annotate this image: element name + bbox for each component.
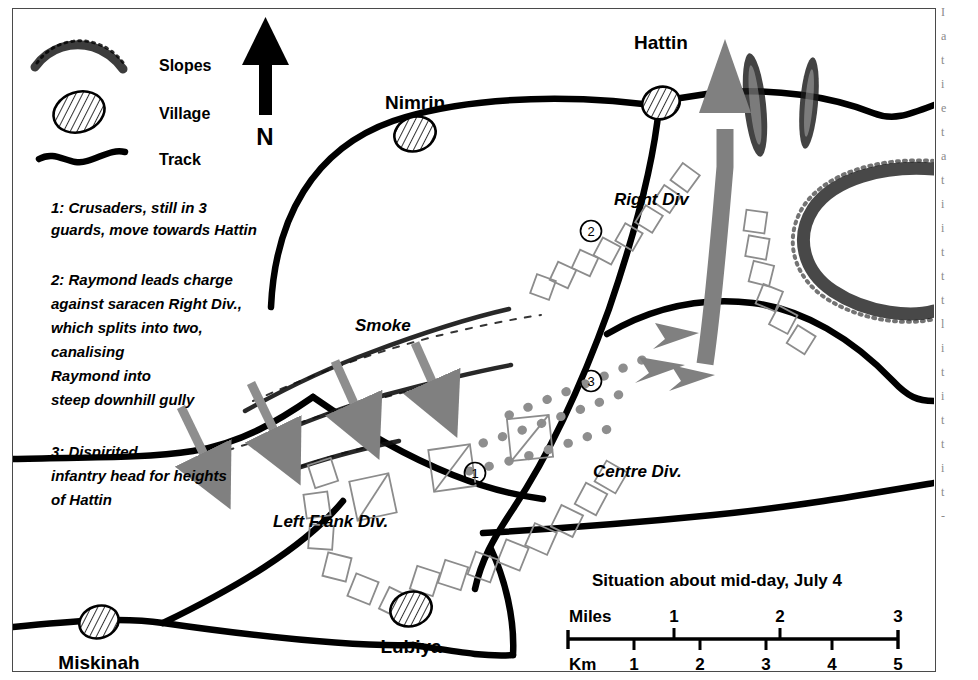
margin-fragment: t: [941, 48, 978, 72]
margin-fragment: a: [941, 24, 978, 48]
margin-fragment: -: [941, 504, 978, 528]
margin-fragment: t: [941, 432, 978, 456]
margin-fragment: e: [941, 96, 978, 120]
margin-fragment: t: [941, 408, 978, 432]
margin-fragment: a: [941, 144, 978, 168]
margin-fragment: i: [941, 456, 978, 480]
margin-fragment: t: [941, 120, 978, 144]
margin-fragment: t: [941, 480, 978, 504]
margin-fragment: t: [941, 360, 978, 384]
margin-fragment: i: [941, 384, 978, 408]
place-label-lubiya: Lubiya: [380, 636, 442, 657]
margin-fragment: t: [941, 288, 978, 312]
margin-fragment: t: [941, 264, 978, 288]
margin-fragment: l: [941, 312, 978, 336]
margin-fragment: i: [941, 72, 978, 96]
margin-fragment: t: [941, 168, 978, 192]
margin-fragment: I: [941, 0, 978, 24]
page-margin-text-sliver: I a t i e t a t i i t t t l i t i t t i …: [941, 0, 978, 680]
margin-fragment: i: [941, 192, 978, 216]
lubiya-overlay: Lubiya: [12, 8, 936, 672]
margin-fragment: t: [941, 240, 978, 264]
margin-fragment: i: [941, 336, 978, 360]
margin-fragment: i: [941, 216, 978, 240]
page-root: Nimrin Hattin Miskinah Right Div Centre …: [0, 0, 978, 680]
